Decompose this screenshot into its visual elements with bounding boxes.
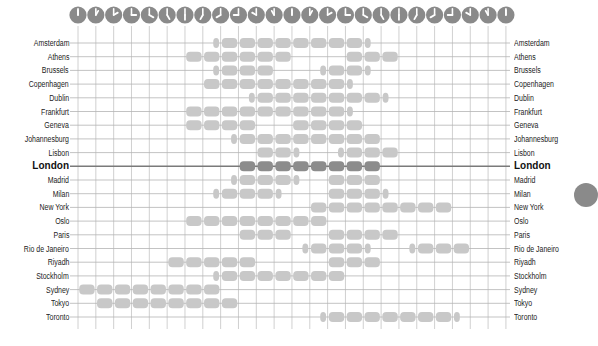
city-label-left: Tokyo [51, 298, 69, 308]
hour-bar [364, 175, 379, 185]
hour-bar [240, 257, 255, 267]
hour-bar [133, 285, 148, 295]
clock-icon [337, 6, 354, 23]
city-label-right: Madrid [514, 175, 535, 185]
clock-icon [266, 6, 283, 23]
side-tab-circle[interactable] [574, 183, 598, 207]
hour-bar [418, 202, 433, 212]
hour-bar [364, 148, 379, 158]
hour-bar [151, 298, 166, 308]
hour-bar [329, 175, 344, 185]
hour-bar [347, 38, 362, 48]
city-label-left: Rio de Janeiro [24, 244, 69, 254]
hour-bar [311, 79, 326, 89]
hour-bar [382, 202, 397, 212]
hour-bar [347, 148, 362, 158]
hour-bar [311, 244, 326, 254]
hour-bar [168, 298, 183, 308]
hour-bar [364, 189, 379, 199]
hour-bar [329, 107, 344, 117]
hour-bar [329, 312, 344, 322]
hour-bar [293, 79, 308, 89]
highlight-hour-bar [258, 161, 273, 171]
hour-bar [409, 244, 415, 254]
clock-icon [141, 6, 158, 23]
hour-bar [204, 79, 219, 89]
hour-bar [347, 175, 362, 185]
city-label-right: Brussels [514, 65, 541, 75]
hour-bar [240, 107, 255, 117]
hour-bar [347, 79, 353, 89]
hour-bar [383, 93, 389, 103]
hour-bar [258, 271, 273, 281]
city-label-left: Stockholm [36, 271, 69, 281]
hour-bar [275, 107, 290, 117]
city-label-right: Amsterdam [514, 38, 550, 48]
hour-bar [329, 230, 344, 240]
city-label-right: Athens [514, 52, 536, 62]
clock-icon [301, 6, 318, 23]
city-label-right: Paris [514, 230, 530, 240]
hour-bar [293, 175, 299, 185]
hour-bar [364, 257, 379, 267]
hour-bar [293, 38, 308, 48]
hour-bar [249, 93, 255, 103]
hour-bar [329, 93, 344, 103]
hour-bar [436, 202, 451, 212]
hour-bar [436, 244, 451, 254]
hour-bar [311, 216, 326, 226]
hour-bar [204, 285, 219, 295]
hour-bar [204, 257, 219, 267]
highlight-hour-bar [364, 161, 379, 171]
city-label-right: Stockholm [514, 271, 547, 281]
hour-bar [347, 93, 362, 103]
city-label-left: New York [40, 202, 69, 212]
hour-bar [311, 271, 326, 281]
hour-bar [382, 230, 397, 240]
hour-bar [382, 52, 397, 62]
hour-bar [275, 271, 290, 281]
hour-bar [222, 65, 237, 75]
city-label-right: Lisbon [514, 148, 535, 158]
hour-bar [347, 257, 362, 267]
hour-bar [186, 107, 201, 117]
hour-bar [258, 134, 273, 144]
city-label-left: Brussels [42, 65, 69, 75]
highlight-hour-bar [275, 161, 290, 171]
city-label-right: Toronto [514, 312, 537, 322]
hour-bar [240, 52, 255, 62]
city-label-left: Copenhagen [29, 79, 69, 89]
city-label-right: Milan [514, 189, 531, 199]
city-label-right: Riyadh [514, 257, 536, 267]
city-label-right: Tokyo [514, 298, 532, 308]
hour-bar [364, 134, 379, 144]
hour-bar [115, 285, 130, 295]
hour-bar [293, 107, 308, 117]
clock-icon [69, 6, 86, 23]
hour-bar [338, 148, 344, 158]
hour-bar [258, 52, 273, 62]
hour-bar [204, 216, 219, 226]
city-label-right: London [514, 161, 551, 171]
hour-bar [347, 120, 362, 130]
hour-bar [222, 189, 237, 199]
hour-bar [436, 312, 451, 322]
hour-bar [329, 189, 344, 199]
city-label-left: London [32, 161, 69, 171]
hour-bar [222, 216, 237, 226]
city-label-left: Amsterdam [33, 38, 69, 48]
city-label-left: Frankfurt [41, 107, 69, 117]
hour-bar [222, 298, 237, 308]
hour-bar [275, 93, 290, 103]
hour-bar [258, 148, 273, 158]
hour-bar [400, 312, 415, 322]
clock-icon [390, 6, 407, 23]
hour-bar [258, 189, 273, 199]
hour-bar [329, 120, 344, 130]
hour-bar [115, 298, 130, 308]
hour-bar [213, 38, 219, 48]
hour-bar [347, 52, 362, 62]
hour-bar [231, 175, 237, 185]
hour-bar [275, 134, 290, 144]
highlight-hour-bar [240, 161, 255, 171]
